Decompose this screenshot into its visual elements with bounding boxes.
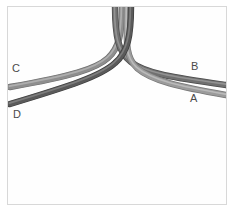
cable-label-B: B bbox=[191, 61, 198, 72]
cable-diagram bbox=[0, 0, 235, 213]
cable-label-C: C bbox=[12, 63, 20, 74]
cable-figure: A B C D bbox=[0, 0, 235, 213]
cable-label-D: D bbox=[13, 109, 21, 120]
cable-label-A: A bbox=[190, 93, 197, 104]
cable-C bbox=[9, 4, 122, 87]
